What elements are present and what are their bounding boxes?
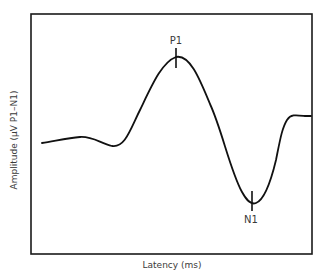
y-axis-label: Amplitude (µV P1–N1) bbox=[9, 91, 19, 190]
x-axis-label: Latency (ms) bbox=[143, 260, 202, 270]
p1-label: P1 bbox=[170, 35, 182, 46]
plot-frame bbox=[31, 14, 312, 254]
n1-label: N1 bbox=[244, 214, 258, 225]
waveform-line bbox=[42, 57, 311, 204]
erp-waveform-chart: P1 N1 Latency (ms) Amplitude (µV P1–N1) bbox=[0, 0, 320, 277]
